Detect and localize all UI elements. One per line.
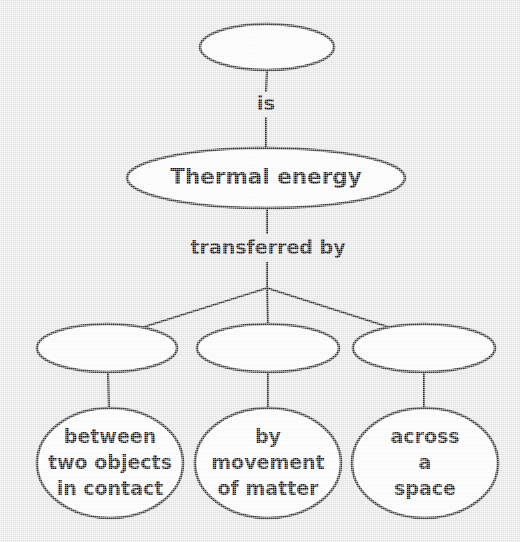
node-thermal-energy-label: Thermal energy [170, 164, 361, 189]
node-leaf-radiation[interactable]: acrossaspace [352, 408, 498, 518]
node-branch-middle-shape[interactable] [197, 324, 339, 372]
node-branch-right[interactable] [353, 324, 495, 372]
node-branch-left[interactable] [37, 324, 177, 372]
node-leaf-conduction-label: betweentwo objectsin contact [48, 425, 172, 499]
node-thermal-energy[interactable]: Thermal energy [127, 148, 405, 208]
link-label-is: is [257, 92, 275, 115]
node-leaf-conduction[interactable]: betweentwo objectsin contact [37, 408, 183, 518]
connector-root-to-is [266, 70, 267, 92]
connector-junction-to-branch-middle [267, 288, 268, 325]
node-branch-middle[interactable] [197, 324, 339, 372]
concept-map-diagram: Thermal energy betweentwo objectsin cont… [0, 0, 520, 542]
node-root-shape[interactable] [200, 24, 334, 70]
connector-branch-left-to-leaf [108, 372, 109, 409]
node-root[interactable] [200, 24, 334, 70]
node-leaf-convection[interactable]: bymovementof matter [195, 408, 341, 518]
node-branch-right-shape[interactable] [353, 324, 495, 372]
node-branch-left-shape[interactable] [37, 324, 177, 372]
link-label-transferred-by: transferred by [190, 236, 346, 258]
